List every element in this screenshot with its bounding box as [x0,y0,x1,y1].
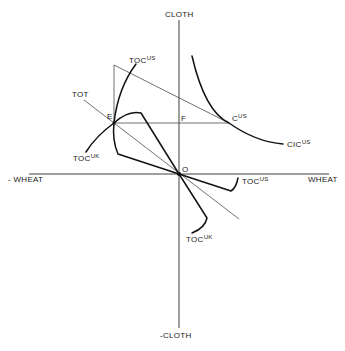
toc-uk-upper-curve [86,112,179,174]
f-label: F [181,114,186,123]
trade-offer-curve-diagram: CLOTH -CLOTH WHEAT - WHEAT O E F CUS TOT… [0,0,345,351]
toc-us-upper-label: TOCUS [129,55,156,65]
e-point [112,121,115,124]
toc-uk-lower-label: TOCUK [186,234,213,244]
toc-uk-upper-label: TOCUK [73,153,100,163]
cloth-axis-label: CLOTH [165,10,194,19]
e-label: E [107,112,113,121]
c-us-label: CUS [232,113,247,123]
neg-cloth-axis-label: -CLOTH [160,331,192,340]
neg-wheat-axis-label: - WHEAT [8,175,43,184]
budget-line [114,65,229,123]
toc-us-lower-label: TOCUS [242,176,269,186]
cic-us-label: CICUS [287,139,311,149]
tot-label: TOT [72,90,89,99]
wheat-axis-label: WHEAT [308,175,338,184]
cic-us-curve [192,56,283,144]
toc-uk-lower-curve [179,174,207,233]
origin-label: O [182,165,189,174]
origin-point [177,172,181,176]
